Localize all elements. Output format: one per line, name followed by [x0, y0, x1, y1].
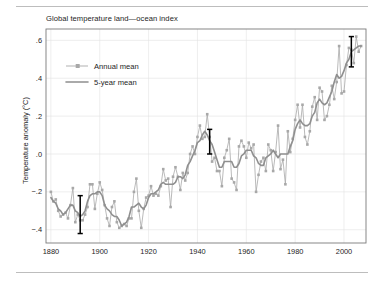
data-point-annual-mean [238, 145, 241, 148]
data-point-annual-mean [223, 156, 226, 159]
data-point-annual-mean [243, 145, 246, 148]
data-point-annual-mean [191, 145, 194, 148]
x-tick-label: 1940 [189, 247, 205, 256]
legend-label-annual-mean: Annual mean [94, 62, 139, 71]
data-point-annual-mean [257, 174, 260, 177]
data-point-annual-mean [252, 143, 255, 146]
data-point-annual-mean [94, 208, 97, 211]
data-point-annual-mean [203, 136, 206, 139]
data-point-annual-mean [130, 217, 133, 220]
data-point-annual-mean [59, 215, 62, 218]
data-point-annual-mean [230, 177, 233, 180]
data-point-annual-mean [98, 181, 101, 184]
y-tick-label: .4 [36, 74, 42, 83]
data-point-annual-mean [140, 227, 143, 230]
data-point-annual-mean [245, 156, 248, 159]
data-point-annual-mean [306, 143, 309, 146]
data-point-annual-mean [174, 166, 177, 169]
data-point-annual-mean [101, 189, 104, 192]
data-point-annual-mean [294, 119, 297, 122]
data-point-annual-mean [296, 103, 299, 106]
data-point-annual-mean [240, 139, 243, 142]
x-tick-label: 2000 [336, 247, 352, 256]
data-point-annual-mean [260, 160, 263, 163]
data-point-annual-mean [181, 172, 184, 175]
data-point-annual-mean [277, 124, 280, 127]
data-point-annual-mean [279, 168, 282, 171]
data-point-annual-mean [235, 189, 238, 192]
data-point-annual-mean [321, 90, 324, 93]
data-point-annual-mean [196, 136, 199, 139]
data-point-annual-mean [113, 200, 116, 203]
data-point-annual-mean [116, 221, 119, 224]
data-point-annual-mean [135, 177, 138, 180]
data-point-annual-mean [267, 143, 270, 146]
data-point-annual-mean [287, 130, 290, 133]
data-point-annual-mean [355, 35, 358, 38]
data-point-annual-mean [206, 113, 209, 116]
data-point-annual-mean [309, 130, 312, 133]
data-point-annual-mean [138, 210, 141, 213]
data-point-annual-mean [326, 115, 329, 118]
data-point-annual-mean [145, 196, 148, 199]
data-point-annual-mean [255, 191, 258, 194]
data-point-annual-mean [348, 47, 351, 50]
y-tick-label: −.4 [32, 225, 42, 234]
data-point-annual-mean [167, 177, 170, 180]
data-point-annual-mean [157, 194, 160, 197]
data-point-annual-mean [225, 149, 228, 152]
data-point-annual-mean [338, 45, 341, 48]
x-tick-label: 1900 [92, 247, 108, 256]
data-point-annual-mean [218, 170, 221, 173]
data-point-annual-mean [272, 170, 275, 173]
data-point-annual-mean [172, 175, 175, 178]
data-point-annual-mean [111, 206, 114, 209]
data-point-annual-mean [74, 221, 77, 224]
data-point-annual-mean [133, 191, 136, 194]
x-tick-label: 1960 [238, 247, 254, 256]
data-point-annual-mean [125, 225, 128, 228]
data-point-annual-mean [199, 124, 202, 127]
y-tick-label: −.2 [32, 187, 42, 196]
data-point-annual-mean [91, 183, 94, 186]
data-point-annual-mean [184, 179, 187, 182]
data-point-annual-mean [150, 185, 153, 188]
data-point-annual-mean [108, 225, 111, 228]
data-point-annual-mean [328, 103, 331, 106]
data-point-annual-mean [352, 62, 355, 65]
x-tick-label: 1980 [287, 247, 303, 256]
data-point-annual-mean [228, 138, 231, 141]
data-point-annual-mean [318, 86, 321, 89]
data-point-annual-mean [304, 136, 307, 139]
data-point-annual-mean [265, 170, 268, 173]
data-point-annual-mean [221, 185, 224, 188]
data-point-annual-mean [211, 160, 214, 163]
x-tick-label: 1880 [43, 247, 59, 256]
data-point-annual-mean [301, 103, 304, 106]
data-point-annual-mean [216, 170, 219, 173]
data-point-annual-mean [333, 98, 336, 101]
figure-page: Global temperature land—ocean index Temp… [0, 0, 384, 281]
data-point-annual-mean [162, 168, 165, 171]
data-point-annual-mean [72, 187, 75, 190]
data-point-annual-mean [50, 191, 53, 194]
data-point-annual-mean [164, 179, 167, 182]
data-point-annual-mean [169, 206, 172, 209]
data-point-annual-mean [313, 96, 316, 99]
data-point-annual-mean [311, 105, 314, 108]
data-point-annual-mean [118, 227, 121, 230]
data-point-annual-mean [152, 194, 155, 197]
data-point-annual-mean [262, 156, 265, 159]
data-point-annual-mean [323, 119, 326, 122]
data-point-annual-mean [247, 141, 250, 144]
data-point-annual-mean [81, 219, 84, 222]
legend-marker-annual-mean [76, 64, 80, 68]
data-point-annual-mean [284, 183, 287, 186]
data-point-annual-mean [189, 153, 192, 156]
data-point-annual-mean [316, 119, 319, 122]
y-tick-label: .2 [36, 112, 42, 121]
data-point-annual-mean [179, 189, 182, 192]
temperature-anomaly-chart: Global temperature land—ocean index Temp… [0, 0, 384, 281]
data-point-annual-mean [343, 90, 346, 93]
data-point-annual-mean [335, 81, 338, 84]
